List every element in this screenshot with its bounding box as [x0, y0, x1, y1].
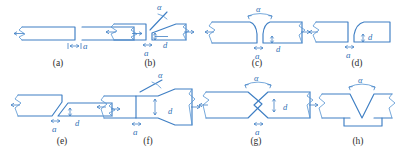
panel-d: a d (d) — [309, 22, 390, 69]
panel-d-gap-label: a — [346, 50, 351, 60]
panel-f-alpha-label: α — [158, 70, 163, 80]
panel-e-gap-label: a — [52, 124, 57, 134]
panel-e: a d (e) — [11, 95, 120, 147]
panel-a: a (a) — [14, 27, 142, 69]
panel-a-caption: (a) — [53, 58, 64, 69]
panel-b-alpha-label: α — [157, 2, 162, 12]
panel-b: α a d (b) — [106, 2, 194, 69]
panel-e-caption: (e) — [57, 136, 68, 147]
panel-h-caption: (h) — [352, 136, 363, 147]
panel-h: α (h) — [319, 75, 395, 147]
panel-f-root-face-label: d — [168, 106, 173, 116]
panel-g: α a d (g) — [199, 73, 318, 147]
panel-b-root-face-label: d — [163, 40, 168, 50]
panel-d-root-face-label: d — [368, 32, 373, 42]
panel-c: α a d (c) — [205, 4, 310, 69]
panel-g-root-face-label: d — [283, 102, 288, 112]
panel-b-gap-label: a — [144, 48, 149, 58]
panel-c-caption: (c) — [252, 58, 263, 69]
panel-g-alpha-label: α — [254, 73, 259, 83]
panel-c-alpha-label: α — [256, 4, 261, 14]
panel-c-root-face-label: d — [276, 44, 281, 54]
panel-e-root-face-label: d — [75, 118, 80, 128]
panel-a-gap-label: a — [83, 41, 88, 51]
panel-f-gap-label: a — [133, 127, 138, 137]
panel-h-alpha-label: α — [358, 75, 363, 85]
panel-g-caption: (g) — [250, 136, 261, 147]
panel-f-caption: (f) — [143, 136, 153, 147]
weld-groove-figure: a (a) α a d (b) α a — [0, 0, 395, 156]
panel-b-caption: (b) — [144, 58, 155, 69]
panel-d-caption: (d) — [351, 58, 362, 69]
